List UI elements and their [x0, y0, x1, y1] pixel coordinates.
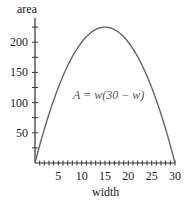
x-tick-label: 20	[122, 169, 134, 183]
y-tick-label: 200	[10, 35, 28, 49]
equation-annotation: A = w(30 − w)	[72, 88, 144, 102]
y-axis-label: area	[17, 2, 38, 16]
y-tick-label: 150	[10, 65, 28, 79]
x-tick-label: 25	[146, 169, 158, 183]
x-tick-label: 30	[169, 169, 181, 183]
y-tick-label: 50	[16, 126, 28, 140]
area-width-chart: 5010015020051015202530 area width A = w(…	[0, 0, 191, 202]
x-axis-label: width	[92, 185, 119, 199]
x-tick-label: 5	[55, 169, 61, 183]
x-tick-label: 10	[76, 169, 88, 183]
x-tick-label: 15	[99, 169, 111, 183]
y-tick-label: 100	[10, 96, 28, 110]
